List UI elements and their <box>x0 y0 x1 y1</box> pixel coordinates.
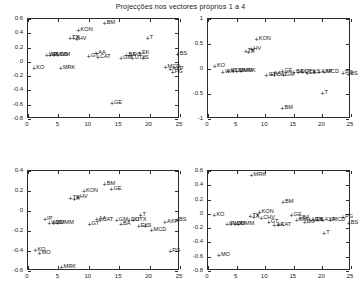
data-point-label: +MRK <box>59 264 76 271</box>
x-tick <box>294 19 295 22</box>
data-point-label: +KO <box>212 212 224 219</box>
figure-title: Projecções nos vectores próprios 1 a 4 <box>0 2 361 11</box>
y-tick <box>28 271 31 272</box>
plot-frame: +KO+MO+IP+WX+DD+MMM+MRK+TX+X+KON+CHV+GT+… <box>207 170 350 270</box>
x-tick <box>28 266 29 269</box>
x-tick <box>237 19 238 22</box>
data-point-label: +CAT <box>96 53 111 60</box>
x-tick <box>150 266 151 269</box>
ticker-label: KON <box>259 35 271 41</box>
data-point-label: +KO <box>32 65 44 72</box>
y-tick <box>175 211 178 212</box>
y-tick <box>346 94 349 95</box>
x-tick-label: 25 <box>347 273 354 279</box>
x-tick <box>322 19 323 22</box>
ticker-label: BM <box>107 20 115 26</box>
x-tick <box>351 114 352 117</box>
ticker-label: MRK <box>64 263 76 269</box>
y-tick-label: 1 <box>180 15 203 21</box>
ticker-label: HV <box>79 35 87 41</box>
x-tick-label: 20 <box>318 273 325 279</box>
y-tick <box>175 231 178 232</box>
x-tick-label: 5 <box>234 121 237 127</box>
y-tick <box>346 271 349 272</box>
x-tick-label: 20 <box>318 121 325 127</box>
data-point-label: +BS <box>175 217 187 224</box>
y-tick-label: -0.6 <box>180 253 203 259</box>
y-tick-label: 0 <box>180 210 203 216</box>
data-point-label: +MRK <box>59 65 76 72</box>
y-tick-label: -0.6 <box>0 267 23 273</box>
ticker-label: BS <box>351 220 358 226</box>
x-tick-label: 0 <box>25 273 28 279</box>
x-tick-label: 15 <box>289 121 296 127</box>
y-tick <box>28 48 31 49</box>
ticker-label: S <box>145 55 149 61</box>
data-point-label: +MO <box>217 251 230 258</box>
ticker-label: MO <box>221 251 230 257</box>
y-tick <box>28 119 31 120</box>
y-tick-label: 0.4 <box>0 167 23 173</box>
data-point-label: +BM <box>103 20 115 27</box>
x-tick-label: 10 <box>84 273 91 279</box>
x-tick <box>58 171 59 174</box>
x-tick <box>119 171 120 174</box>
data-point-label: +S <box>141 55 149 62</box>
ticker-label: MMM <box>240 220 254 226</box>
y-tick <box>208 94 211 95</box>
ticker-label: KO <box>216 212 224 218</box>
y-tick <box>208 200 211 201</box>
y-tick <box>175 33 178 34</box>
data-point-label: +KON <box>82 188 98 195</box>
ticker-label: BM <box>284 104 292 110</box>
data-point-label: +GE <box>110 99 122 106</box>
x-tick <box>294 114 295 117</box>
y-tick-label: 0 <box>0 58 23 64</box>
data-point-label: +BS <box>347 220 359 227</box>
y-tick <box>208 257 211 258</box>
data-point-label: +T <box>320 89 328 96</box>
data-point-label: +MRK <box>239 68 256 75</box>
y-tick <box>208 69 211 70</box>
y-tick <box>175 19 178 20</box>
y-tick <box>346 44 349 45</box>
data-point-label: +DD <box>56 52 68 59</box>
y-tick <box>28 105 31 106</box>
y-tick <box>28 191 31 192</box>
x-tick <box>28 114 29 117</box>
x-tick <box>351 266 352 269</box>
y-tick-label: 0 <box>180 65 203 71</box>
x-tick <box>150 19 151 22</box>
plot-frame: +KO+WX+IP+MMM+DD+MRK+TX+X+HV+KON+GT+AA+C… <box>27 18 179 118</box>
x-tick-label: 5 <box>234 273 237 279</box>
x-tick <box>208 114 209 117</box>
data-point-label: +T <box>322 230 330 237</box>
y-tick-label: 0.6 <box>180 167 203 173</box>
data-point-label: +GE <box>109 186 121 193</box>
x-tick-label: 25 <box>347 121 354 127</box>
ticker-label: BS <box>179 216 186 222</box>
y-tick <box>175 90 178 91</box>
x-tick <box>89 171 90 174</box>
data-point-label: +HV <box>76 194 88 201</box>
scatter-panel-eigenvector-2: +KO+WX+IP+DD+MMM+MRK+TX+X+HV+KON+GT+AA+C… <box>207 18 350 118</box>
ticker-label: DD <box>60 52 68 58</box>
data-point-label: +HV <box>75 36 87 43</box>
x-tick <box>265 266 266 269</box>
y-tick <box>346 171 349 172</box>
y-tick <box>28 76 31 77</box>
scatter-panel-eigenvector-4: +KO+MO+IP+WX+DD+MMM+MRK+TX+X+KON+CHV+GT+… <box>207 170 350 270</box>
ticker-label: MMM <box>60 219 74 225</box>
y-tick <box>208 228 211 229</box>
x-tick <box>28 171 29 174</box>
y-tick-label: 0.4 <box>180 181 203 187</box>
y-tick <box>175 76 178 77</box>
x-tick <box>89 19 90 22</box>
data-point-label: +CAT <box>98 217 113 224</box>
y-tick-label: -0.8 <box>180 267 203 273</box>
data-point-label: +PG <box>168 248 180 255</box>
ticker-label: KO <box>36 65 44 71</box>
y-tick-label: 0.2 <box>180 196 203 202</box>
data-point-label: +MMM <box>56 220 74 227</box>
x-tick-label: 15 <box>289 273 296 279</box>
